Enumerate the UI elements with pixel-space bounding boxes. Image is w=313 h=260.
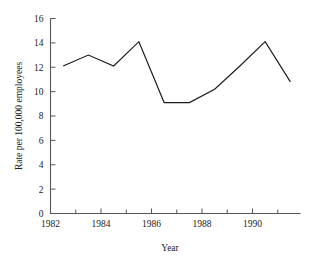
y-tick-label: 10 <box>34 87 44 97</box>
plot-area: 0246810121416 19821984198619881990 <box>34 14 301 229</box>
y-tick-label: 14 <box>34 38 44 48</box>
y-tick-label: 6 <box>39 136 44 146</box>
y-axis-tick-labels: 0246810121416 <box>34 14 44 219</box>
data-series-line <box>63 42 290 103</box>
x-axis-major-ticks <box>51 209 253 214</box>
y-tick-label: 2 <box>39 185 44 195</box>
x-tick-label: 1988 <box>193 219 212 229</box>
y-axis-title: Rate per 100,000 employees <box>14 62 24 170</box>
x-tick-label: 1986 <box>142 219 161 229</box>
y-tick-label: 0 <box>39 209 44 219</box>
y-tick-label: 8 <box>39 111 44 121</box>
chart-canvas: 0246810121416 19821984198619881990 Year … <box>0 0 313 260</box>
y-tick-label: 12 <box>34 63 44 73</box>
y-tick-label: 16 <box>34 14 44 24</box>
x-tick-label: 1990 <box>243 219 262 229</box>
x-tick-label: 1984 <box>92 219 111 229</box>
x-tick-label: 1982 <box>41 219 60 229</box>
x-axis-title: Year <box>161 243 179 253</box>
x-axis-minor-ticks <box>76 210 278 214</box>
y-tick-label: 4 <box>39 160 44 170</box>
line-chart: 0246810121416 19821984198619881990 Year … <box>0 0 313 260</box>
y-axis-ticks <box>51 19 56 214</box>
x-axis-tick-labels: 19821984198619881990 <box>41 219 262 229</box>
